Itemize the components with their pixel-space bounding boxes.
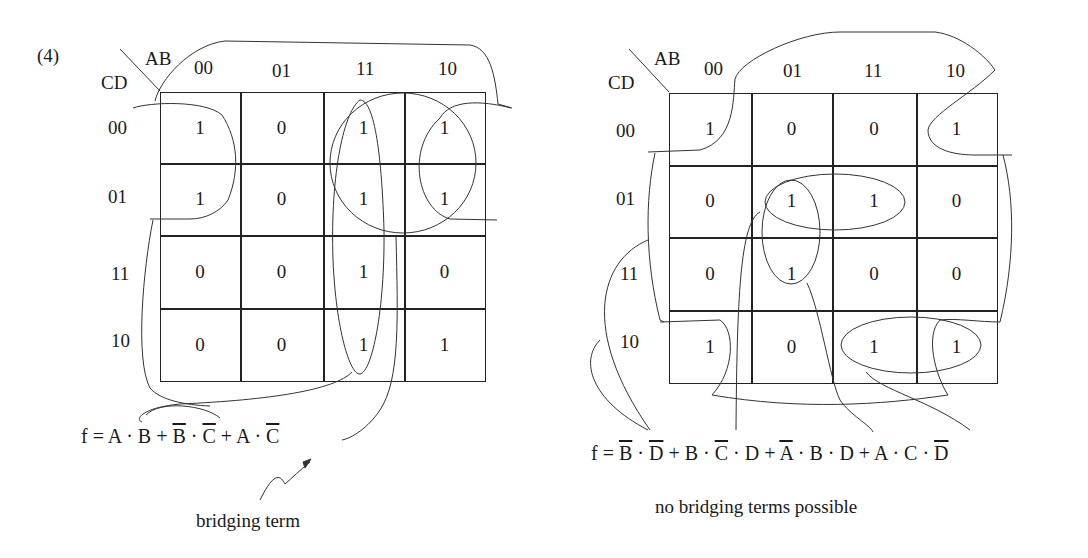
col-header: 00 (194, 58, 213, 77)
kmap-cell: 0 (160, 308, 240, 381)
kmap-cell: 0 (240, 235, 323, 308)
brace-right (1000, 155, 1012, 322)
kmap-cell: 1 (832, 165, 916, 237)
kmap-cell: 0 (832, 93, 916, 165)
row-header: 00 (108, 118, 127, 137)
brace-ab-term (146, 406, 220, 418)
col-header: 01 (272, 61, 291, 80)
kmap-cell: 0 (916, 237, 997, 310)
kmap-cell: 0 (404, 235, 485, 308)
kmap-cell: 1 (669, 310, 751, 383)
annotation-no-bridging: no bridging terms possible (655, 496, 857, 518)
kmap-cell: 1 (160, 163, 240, 235)
kmap-cell: 0 (751, 93, 832, 165)
kmap-cell: 0 (832, 237, 916, 310)
col-header: 01 (783, 61, 802, 80)
kmap-cell: 1 (751, 165, 832, 237)
corner-label-ab: AB (654, 49, 680, 68)
kmap-cell: 1 (160, 92, 240, 163)
kmap-cell: 1 (404, 308, 485, 381)
kmap-cell: 1 (323, 163, 404, 235)
kmap-cell: 0 (669, 165, 751, 237)
kmap-cell: 1 (751, 237, 832, 310)
kmap-cell: 0 (240, 163, 323, 235)
kmap-cell: 1 (323, 92, 404, 163)
kmap-cell: 0 (240, 92, 323, 163)
kmap-cell: 1 (832, 310, 916, 383)
row-header: 11 (111, 264, 129, 283)
col-header: 11 (864, 61, 882, 80)
row-header: 11 (620, 264, 638, 283)
corner-label-ab: AB (145, 49, 171, 68)
kmap-cell: 1 (916, 93, 997, 165)
corner-label-cd: CD (608, 73, 634, 92)
kmap-cell: 1 (669, 93, 751, 165)
kmap-cell: 1 (404, 163, 485, 235)
kmap-cell: 1 (323, 235, 404, 308)
row-header: 00 (616, 121, 635, 140)
kmap-cell: 1 (323, 308, 404, 381)
corner-label-cd: CD (101, 73, 127, 92)
equation-left: f = A · B + B · C + A · C (81, 425, 279, 448)
kmap-cell: 0 (160, 235, 240, 308)
brace-left (648, 153, 664, 322)
col-header: 10 (438, 59, 457, 78)
row-header: 01 (108, 187, 127, 206)
annotation-bridging-term: bridging term (196, 510, 300, 532)
row-header: 01 (616, 189, 635, 208)
row-header: 10 (620, 332, 639, 351)
kmap-cell: 0 (669, 237, 751, 310)
connector-bd (591, 340, 648, 430)
kmap-cell: 0 (240, 308, 323, 381)
kmap-cell: 1 (404, 92, 485, 163)
col-header: 00 (704, 59, 723, 78)
row-header: 10 (111, 331, 130, 350)
kmap-cell: 1 (916, 310, 997, 383)
bridging-arrowhead-icon (303, 459, 311, 468)
kmap-cell: 0 (916, 165, 997, 237)
col-header: 11 (356, 59, 374, 78)
problem-label: (4) (37, 46, 59, 65)
brace-bottom (712, 395, 948, 404)
col-header: 10 (946, 61, 965, 80)
kmap-cell: 0 (751, 310, 832, 383)
bridging-arrow-stem (260, 462, 310, 500)
equation-right: f = B · D + B · C · D + A · B · D + A · … (591, 442, 949, 465)
